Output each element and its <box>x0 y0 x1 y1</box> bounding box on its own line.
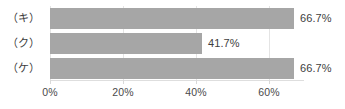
bar-value-label-1: 41.7% <box>208 33 240 54</box>
x-tick-label-0: 0% <box>42 86 57 98</box>
x-tick-mark-40 <box>196 80 197 84</box>
x-tick-label-20: 20% <box>112 86 133 98</box>
bar-0 <box>50 8 294 29</box>
bar-row-1: 41.7% <box>50 33 345 54</box>
bar-value-label-0: 66.7% <box>300 8 332 29</box>
bar-2 <box>50 58 294 79</box>
category-label-0: （キ） <box>0 8 46 29</box>
horizontal-bar-chart: （キ） （ク） （ケ） 66.7% 41.7% 66.7% 0% 20% 40%… <box>0 0 345 109</box>
x-tick-mark-0 <box>50 80 51 84</box>
bar-row-2: 66.7% <box>50 58 345 79</box>
bar-value-label-2: 66.7% <box>300 58 332 79</box>
x-tick-label-60: 60% <box>258 86 279 98</box>
category-label-1: （ク） <box>0 33 46 54</box>
x-tick-label-40: 40% <box>185 86 206 98</box>
bar-row-0: 66.7% <box>50 8 345 29</box>
x-axis-line <box>50 80 304 81</box>
x-tick-mark-20 <box>123 80 124 84</box>
category-label-2: （ケ） <box>0 58 46 79</box>
bar-1 <box>50 33 202 54</box>
x-tick-mark-60 <box>269 80 270 84</box>
